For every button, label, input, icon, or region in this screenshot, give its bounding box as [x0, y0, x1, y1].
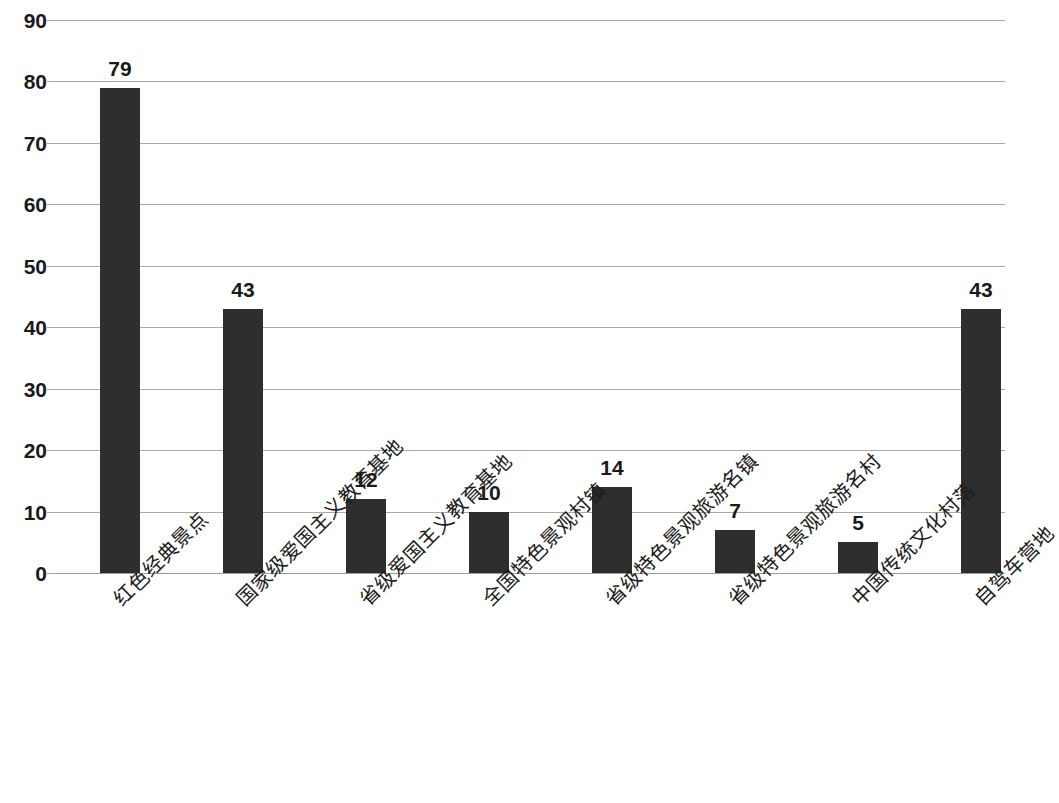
bar-value-label: 43	[941, 279, 1021, 300]
y-tick-label: 10	[1, 502, 47, 523]
bar-value-label: 43	[203, 279, 283, 300]
bar	[223, 309, 263, 573]
y-tick-label: 30	[1, 379, 47, 400]
bar-value-label: 14	[572, 457, 652, 478]
bar-value-label: 79	[80, 58, 160, 79]
y-tick-mark	[47, 327, 55, 328]
y-tick-mark	[47, 573, 55, 574]
y-tick-mark	[47, 512, 55, 513]
y-tick-mark	[47, 204, 55, 205]
y-axis: 90 80 70 60 50 40 30 20 10 0	[0, 20, 47, 573]
y-tick-label: 20	[1, 440, 47, 461]
y-tick-label: 90	[1, 10, 47, 31]
gridline	[55, 204, 1005, 205]
y-tick-mark	[47, 143, 55, 144]
y-tick-mark	[47, 20, 55, 21]
gridline	[55, 143, 1005, 144]
y-tick-mark	[47, 266, 55, 267]
x-axis-labels: 红色经典景点国家级爱国主义教育基地省级爱国主义教育基地全国特色景观村镇省级特色景…	[55, 573, 1005, 803]
y-tick-label: 50	[1, 256, 47, 277]
bar	[100, 88, 140, 573]
gridline	[55, 389, 1005, 390]
gridline	[55, 20, 1005, 21]
gridline	[55, 266, 1005, 267]
y-tick-label: 40	[1, 317, 47, 338]
y-tick-label: 60	[1, 194, 47, 215]
gridline	[55, 327, 1005, 328]
bar	[961, 309, 1001, 573]
y-tick-mark	[47, 81, 55, 82]
y-tick-label: 0	[1, 563, 47, 584]
y-tick-label: 70	[1, 133, 47, 154]
y-tick-label: 80	[1, 71, 47, 92]
y-tick-mark	[47, 450, 55, 451]
gridline	[55, 81, 1005, 82]
y-tick-mark	[47, 389, 55, 390]
